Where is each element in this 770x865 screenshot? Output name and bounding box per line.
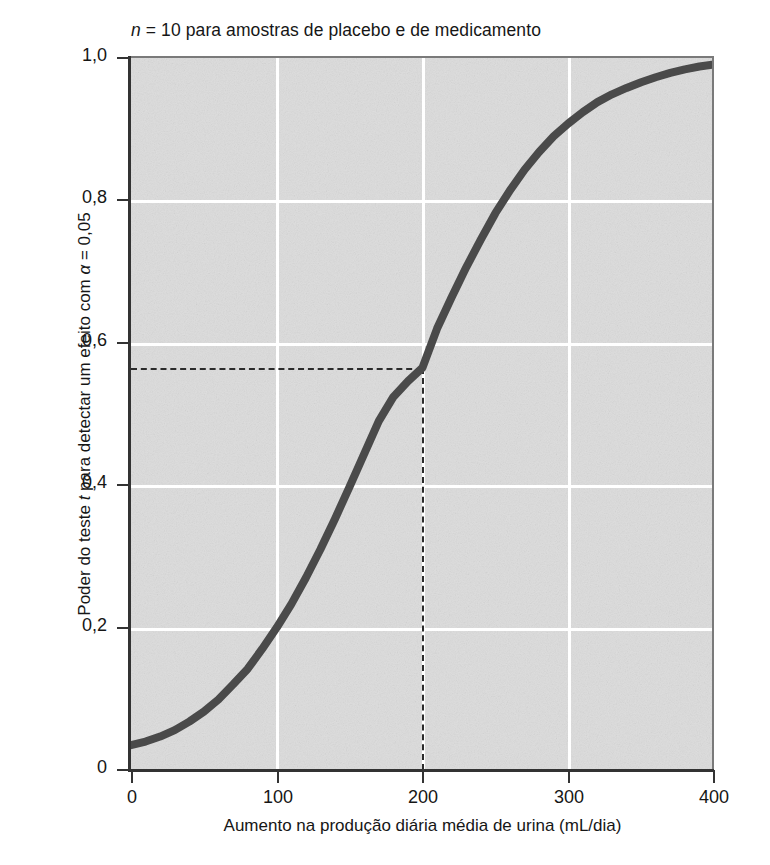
power-curve <box>131 58 714 770</box>
x-tick-100 <box>277 770 279 783</box>
y-tick-label-0.4: 0,4 <box>47 472 107 493</box>
y-tick-label-group: 1,0 0,8 0,6 0,4 0,2 0 <box>47 0 107 865</box>
plot-frame-top <box>128 56 714 58</box>
plot-area <box>131 58 714 770</box>
y-tick-label-0: 0 <box>47 757 107 778</box>
y-tick-0.2 <box>117 627 130 629</box>
y-tick-label-0.8: 0,8 <box>47 187 107 208</box>
y-tick-label-0.2: 0,2 <box>47 615 107 636</box>
chart-title-italic-symbol: n <box>131 20 141 40</box>
power-curve-figure: n = 10 para amostras de placebo e de med… <box>0 0 770 865</box>
plot-frame-right <box>712 56 714 772</box>
x-tick-0 <box>131 770 133 783</box>
x-tick-label-400: 400 <box>674 787 754 808</box>
x-tick-400 <box>713 770 715 783</box>
y-tick-label-1.0: 1,0 <box>47 45 107 66</box>
y-tick-1.0 <box>117 57 130 59</box>
y-tick-0.4 <box>117 484 130 486</box>
x-tick-200 <box>422 770 424 783</box>
y-tick-0.6 <box>117 342 130 344</box>
chart-title-rest: = 10 para amostras de placebo e de medic… <box>141 20 541 40</box>
power-curve-line <box>131 64 714 745</box>
x-tick-label-300: 300 <box>529 787 609 808</box>
x-axis-line <box>128 769 714 772</box>
y-tick-label-0.6: 0,6 <box>47 330 107 351</box>
x-tick-300 <box>568 770 570 783</box>
x-tick-label-100: 100 <box>238 787 318 808</box>
x-tick-label-0: 0 <box>92 787 172 808</box>
y-tick-0.8 <box>117 199 130 201</box>
x-axis-title: Aumento na produção diária média de urin… <box>131 816 714 836</box>
x-tick-label-200: 200 <box>383 787 463 808</box>
y-axis-line <box>128 56 131 772</box>
chart-title: n = 10 para amostras de placebo e de med… <box>131 20 541 41</box>
y-tick-0 <box>117 769 130 771</box>
